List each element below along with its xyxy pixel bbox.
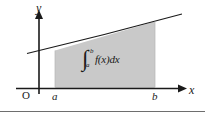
definite-integral-figure: y x O a b ∫ b a f(x)dx	[0, 0, 205, 119]
upper-limit-tick-label: b	[152, 91, 158, 102]
x-axis-arrowhead	[178, 85, 187, 93]
y-axis-label: y	[36, 2, 41, 14]
integral-lower-limit: a	[86, 62, 90, 69]
x-axis-label: x	[189, 84, 194, 96]
integral-upper-limit: b	[90, 48, 94, 55]
origin-label: O	[22, 90, 30, 101]
integral-annotation: ∫ b a f(x)dx	[82, 49, 119, 69]
integrand-expression: f(x)dx	[95, 53, 119, 65]
bottom-border-rule	[0, 111, 205, 112]
lower-limit-tick-label: a	[52, 91, 58, 102]
integral-sign-group: ∫ b a	[82, 49, 94, 69]
